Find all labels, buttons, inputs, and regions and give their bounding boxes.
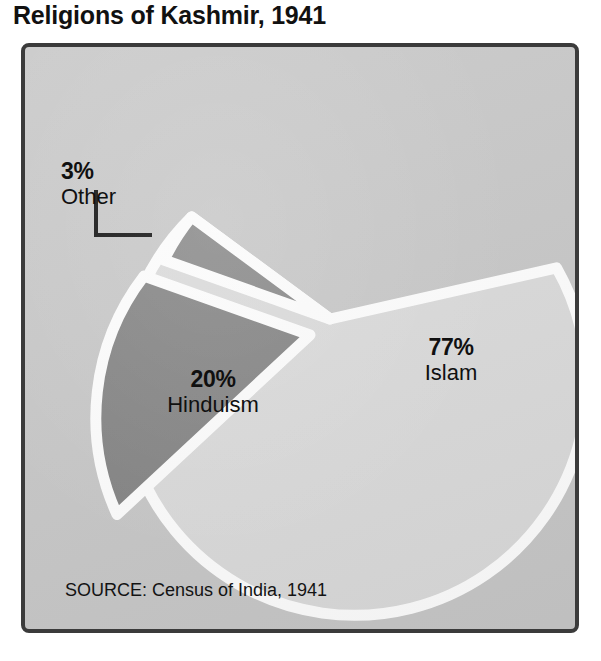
slice-label-islam: 77% Islam xyxy=(389,335,513,385)
slice-percent-hinduism: 20% xyxy=(133,367,293,393)
slice-name-other: Other xyxy=(61,185,116,210)
slice-name-hinduism: Hinduism xyxy=(133,393,293,418)
slice-percent-islam: 77% xyxy=(389,335,513,361)
chart-panel: 3% Other 20% Hinduism 77% Islam SOURCE: … xyxy=(21,43,579,633)
slice-label-other: 3% Other xyxy=(61,159,116,209)
pie-chart-figure: Religions of Kashmir, 1941 3% Ot xyxy=(0,0,601,661)
slice-name-islam: Islam xyxy=(389,361,513,386)
slice-percent-other: 3% xyxy=(61,159,116,185)
page-title: Religions of Kashmir, 1941 xyxy=(13,1,326,30)
slice-label-hinduism: 20% Hinduism xyxy=(133,367,293,417)
source-note: SOURCE: Census of India, 1941 xyxy=(65,580,327,601)
